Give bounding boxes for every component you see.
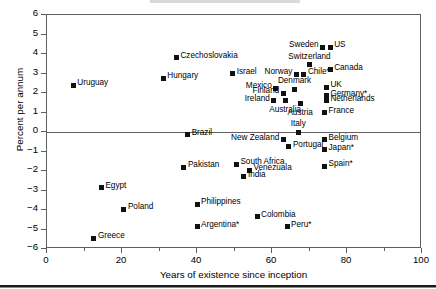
data-point-marker	[91, 236, 96, 241]
data-point-label: Czechoslovakia	[180, 51, 237, 60]
y-axis-tick-label: 6	[12, 8, 38, 18]
x-axis-tick	[196, 248, 197, 253]
data-point-label: Italy	[291, 119, 306, 128]
x-axis-tick-label: 0	[26, 254, 66, 265]
plot-frame: UruguayHungaryCzechoslovakiaIsraelSweden…	[46, 14, 421, 248]
clipped-title-remnant	[150, 0, 300, 3]
data-point-marker	[320, 45, 325, 50]
data-point-label: Greece	[98, 231, 125, 240]
data-point-label: Austria	[287, 108, 312, 117]
data-point-label: Denmark	[278, 76, 311, 85]
data-point-marker	[307, 62, 312, 67]
y-axis-tick-label: −6	[12, 242, 38, 252]
x-axis-minor-tick	[384, 248, 385, 251]
data-point-label: Colombia	[261, 210, 296, 219]
data-point-label: Ireland	[245, 94, 270, 103]
data-point-marker	[99, 185, 104, 190]
data-point-label: Hungary	[167, 71, 198, 80]
data-point-label: Portugal	[293, 140, 324, 149]
y-axis-tick-label: −4	[12, 203, 38, 213]
x-axis-tick-label: 100	[401, 254, 436, 265]
x-axis-tick	[421, 248, 422, 253]
data-point-marker	[328, 45, 333, 50]
data-point-marker	[296, 130, 301, 135]
x-axis-minor-tick	[84, 248, 85, 251]
data-point-label: Peru*	[291, 220, 311, 229]
y-axis-tick-label: 1	[12, 106, 38, 116]
y-axis-tick-label: −3	[12, 184, 38, 194]
x-axis-minor-tick	[309, 248, 310, 251]
data-point-label: Pakistan	[188, 160, 219, 169]
y-axis-tick-label: 0	[12, 125, 38, 135]
data-point-label: Israel	[237, 67, 257, 76]
x-axis-tick	[121, 248, 122, 253]
data-point-marker	[281, 137, 286, 142]
y-axis-tick-label: 3	[12, 67, 38, 77]
x-axis-minor-tick	[159, 248, 160, 251]
data-point-label: Japan*	[329, 143, 355, 152]
data-point-marker	[241, 174, 246, 179]
footer-rule-shadow	[0, 287, 436, 288]
y-axis-tick-label: −5	[12, 223, 38, 233]
y-axis-tick-label: 4	[12, 47, 38, 57]
data-point-marker	[286, 144, 291, 149]
data-point-label: US	[334, 40, 345, 49]
data-point-marker	[195, 224, 200, 229]
data-point-label: UK	[330, 80, 341, 89]
data-point-marker	[174, 55, 179, 60]
data-point-marker	[271, 98, 276, 103]
x-axis-tick-label: 40	[176, 254, 216, 265]
data-point-label: Belgium	[329, 133, 359, 142]
data-point-label: Spain*	[329, 159, 353, 168]
x-axis-tick-label: 60	[251, 254, 291, 265]
data-point-marker	[181, 165, 186, 170]
data-point-marker	[324, 85, 329, 90]
y-axis-tick-label: −2	[12, 164, 38, 174]
data-point-marker	[322, 164, 327, 169]
data-point-marker	[322, 110, 327, 115]
data-point-label: Egypt	[105, 181, 126, 190]
data-point-label: Uruguay	[77, 78, 108, 87]
data-point-marker	[283, 98, 288, 103]
data-point-marker	[324, 98, 329, 103]
data-point-marker	[230, 71, 235, 76]
data-point-marker	[281, 91, 286, 96]
y-axis-tick-label: 2	[12, 86, 38, 96]
data-point-marker	[71, 83, 76, 88]
x-axis-tick-label: 80	[326, 254, 366, 265]
x-axis-tick	[46, 248, 47, 253]
x-axis-tick-label: 20	[101, 254, 141, 265]
scatter-chart-figure: Percent per annum Years of existence sin…	[0, 0, 436, 289]
data-point-marker	[195, 202, 200, 207]
data-point-label: Argentina*	[201, 220, 239, 229]
x-axis-tick	[346, 248, 347, 253]
plot-area: UruguayHungaryCzechoslovakiaIsraelSweden…	[47, 15, 420, 247]
x-axis-tick	[271, 248, 272, 253]
data-point-marker	[255, 214, 260, 219]
data-point-label: New Zealand	[231, 133, 279, 142]
data-point-label: Canada	[334, 63, 363, 72]
y-axis-tick-label: −1	[12, 145, 38, 155]
data-point-label: Sweden	[289, 40, 319, 49]
data-point-marker	[285, 224, 290, 229]
x-axis-title: Years of existence since inception	[46, 269, 421, 280]
data-point-marker	[322, 147, 327, 152]
data-point-marker	[185, 132, 190, 137]
x-axis-minor-tick	[234, 248, 235, 251]
data-point-marker	[234, 162, 239, 167]
data-point-marker	[298, 101, 303, 106]
data-point-label: India	[248, 170, 266, 179]
data-point-label: Netherlands	[330, 94, 374, 103]
data-point-marker	[292, 87, 297, 92]
data-point-label: Chile*	[308, 67, 330, 76]
data-point-label: Philippines	[201, 197, 241, 206]
data-point-marker	[161, 76, 166, 81]
data-point-label: Brazil	[192, 128, 212, 137]
data-point-label: France	[329, 106, 354, 115]
data-point-label: Poland	[128, 202, 154, 211]
y-axis-tick-label: 5	[12, 28, 38, 38]
data-point-marker	[121, 207, 126, 212]
data-point-label: Switzerland	[288, 52, 330, 61]
